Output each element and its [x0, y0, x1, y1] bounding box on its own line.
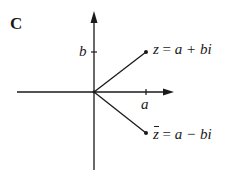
tick-label-b: b: [79, 44, 87, 59]
point-z-conjugate: [144, 131, 148, 135]
point-z: [144, 50, 148, 54]
real-axis-arrow-icon: [163, 89, 174, 96]
imaginary-axis-arrow-icon: [91, 11, 98, 23]
origin-dot: [93, 91, 96, 94]
vector-z-conjugate: [94, 92, 146, 133]
vector-z: [94, 52, 146, 92]
label-zbar-rhs: a − bi: [175, 126, 212, 142]
label-z-conjugate: z = a − bi: [153, 127, 212, 142]
complex-plane-axes: [0, 0, 230, 177]
label-z: z = a + bi: [153, 42, 212, 57]
complex-plane-figure: C b a z = a + bi z = a − bi: [0, 0, 230, 177]
label-zbar-lhs: z: [153, 127, 159, 142]
label-z-rhs: a + bi: [175, 41, 212, 57]
tick-label-a: a: [141, 97, 149, 112]
label-z-equals: =: [159, 41, 175, 57]
label-zbar-equals: =: [159, 126, 175, 142]
